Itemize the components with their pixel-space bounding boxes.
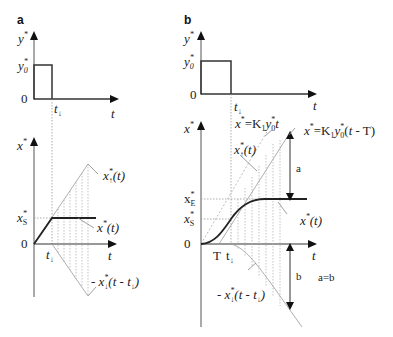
zero-label: 0 bbox=[21, 236, 28, 251]
zero-label: 0 bbox=[184, 236, 191, 251]
zero-label: 0 bbox=[190, 87, 197, 102]
zero-label: 0 bbox=[21, 91, 28, 106]
annotation-a: a bbox=[296, 162, 301, 174]
xs-label: x*S bbox=[16, 209, 27, 227]
y-axis-arrow-icon bbox=[197, 31, 205, 40]
t-axis-arrow-icon bbox=[108, 240, 117, 248]
leader-response bbox=[278, 202, 287, 214]
ramp-down-label: - x*↓(t - t↓) bbox=[217, 286, 265, 304]
arrow-a-up-icon bbox=[286, 131, 294, 139]
panel-b-label: b bbox=[184, 13, 191, 27]
delayed-ramp-label: x*=K1y*0(t - T) bbox=[303, 122, 375, 140]
response-label: x*(t) bbox=[299, 212, 322, 228]
panel-a: a y* y*0 0 t↓ t bbox=[16, 13, 139, 297]
t-down-label: t↓ bbox=[46, 247, 54, 264]
figure-canvas: a y* y*0 0 t↓ t bbox=[0, 0, 393, 337]
ramp-up-label: x*↑(t) bbox=[233, 141, 256, 159]
ideal-ramp-label: x*=K1y*0t bbox=[234, 115, 279, 133]
panel-a-label: a bbox=[17, 13, 24, 27]
y0-label: y*0 bbox=[182, 53, 194, 71]
y-axis-arrow-icon bbox=[30, 31, 38, 40]
panel-a-input-plot: y* y*0 0 t↓ t bbox=[16, 30, 119, 244]
panel-b-input-plot: y* y*0 0 t↓ t bbox=[182, 30, 317, 244]
t-axis-label: t bbox=[111, 106, 115, 121]
annotation-b: b bbox=[296, 270, 302, 282]
annotation-equality: a=b bbox=[318, 271, 335, 283]
t-axis-arrow-icon bbox=[308, 90, 317, 98]
x-axis-arrow-icon bbox=[197, 121, 205, 130]
delay-T-label: T bbox=[213, 248, 221, 263]
y-axis-label: y* bbox=[182, 30, 194, 46]
x-axis-label: x* bbox=[183, 120, 194, 136]
response-label: x*(t) bbox=[96, 219, 119, 235]
t-down-label: t↓ bbox=[54, 101, 62, 118]
hatch-lines bbox=[58, 164, 88, 296]
t-axis-arrow-icon bbox=[308, 240, 317, 248]
xs-label: x*S bbox=[183, 210, 194, 228]
t-axis-label: t bbox=[312, 248, 316, 263]
xe-label: x*E bbox=[184, 190, 196, 208]
pulse-signal bbox=[201, 61, 231, 94]
ramp-up-label: x*↑(t) bbox=[102, 167, 125, 185]
response-curve bbox=[201, 199, 307, 244]
y0-label: y*0 bbox=[16, 57, 28, 75]
panel-a-output-plot: x* x*S 0 t↓ t x*↑(t) x*(t) - x*↓(t - t↓) bbox=[16, 137, 139, 297]
x-axis-label: x* bbox=[16, 137, 27, 153]
t-axis-arrow-icon bbox=[110, 95, 119, 103]
leader-ramp-up bbox=[88, 164, 98, 174]
t-axis-label: t bbox=[313, 98, 317, 113]
x-axis-arrow-icon bbox=[30, 137, 38, 146]
y-axis-label: y* bbox=[16, 30, 28, 46]
panel-b: b y* y*0 0 t↓ t bbox=[182, 13, 375, 327]
pulse-signal bbox=[34, 65, 52, 99]
panel-b-output-plot: x* x*E x*S 0 T t↓ t x*=K1y*0t x*=K1y*0(t… bbox=[183, 115, 375, 327]
hatch-lines bbox=[238, 140, 280, 306]
t-down-label: t↓ bbox=[226, 248, 234, 265]
t-axis-label: t bbox=[108, 248, 112, 263]
t-down-label: t↓ bbox=[234, 99, 242, 116]
leader-response bbox=[78, 218, 94, 228]
ramp-down-label: - x*↓(t - t↓) bbox=[91, 273, 139, 291]
response-curve bbox=[34, 218, 96, 244]
ramp-down-curve bbox=[231, 244, 302, 327]
